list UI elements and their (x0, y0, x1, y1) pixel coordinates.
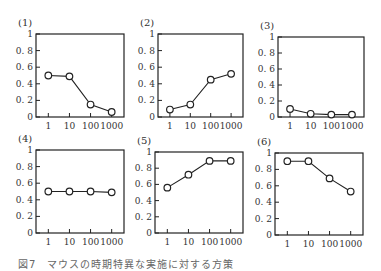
y-tick-label: 1 (27, 29, 33, 39)
x-tick-label: 10 (303, 239, 315, 249)
x-tick-label: 1 (167, 121, 173, 131)
x-tick-label: 1000 (100, 121, 123, 131)
x-tick-label: 10 (64, 121, 76, 131)
x-tick-label: 10 (185, 121, 197, 131)
y-tick-label: 0. 8 (138, 46, 155, 56)
y-tick-label: 0. 6 (16, 62, 33, 72)
y-tick-label: 1 (269, 32, 275, 42)
y-tick-label: 0 (146, 228, 152, 238)
series-line (167, 161, 230, 188)
y-tick-label: 1 (27, 145, 33, 155)
y-tick-label: 0. 4 (138, 79, 155, 89)
data-point-marker (185, 171, 192, 178)
data-point-marker (108, 189, 115, 196)
x-tick-label: 100 (321, 239, 338, 249)
data-point-marker (307, 111, 314, 118)
series-line (290, 109, 352, 115)
chart-panel-6: (6)00. 20. 40. 60. 811101001000 (255, 136, 363, 249)
data-point-marker (326, 175, 333, 182)
plot-frame (278, 37, 364, 117)
y-tick-label: 1 (146, 147, 152, 157)
panel-title: (6) (257, 136, 271, 147)
data-point-marker (45, 72, 52, 79)
y-tick-label: 0. 4 (255, 197, 272, 207)
y-tick-label: 0. 6 (135, 179, 152, 189)
data-point-marker (287, 106, 294, 113)
y-tick-label: 0. 4 (16, 79, 33, 89)
chart-panel-1: (1)00. 20. 40. 60. 811101001000 (16, 17, 124, 131)
figure-caption: 図7 マウスの時期特異な実施に対する方策 (18, 256, 234, 271)
data-point-marker (66, 188, 73, 195)
x-tick-label: 10 (305, 121, 317, 131)
panel-title: (5) (137, 135, 151, 146)
x-tick-label: 100 (323, 121, 340, 131)
x-tick-label: 100 (201, 237, 218, 247)
x-tick-label: 100 (82, 237, 99, 247)
data-point-marker (187, 101, 194, 108)
panel-title: (3) (260, 20, 274, 31)
series-line (48, 192, 111, 193)
data-point-marker (45, 188, 52, 195)
y-tick-label: 0. 6 (258, 64, 275, 74)
y-tick-label: 0 (269, 112, 275, 122)
x-tick-label: 1 (164, 237, 170, 247)
x-tick-label: 1000 (220, 121, 243, 131)
y-tick-label: 1 (266, 148, 272, 158)
x-tick-label: 1 (284, 239, 290, 249)
y-tick-label: 0. 4 (258, 80, 275, 90)
x-tick-label: 100 (82, 121, 99, 131)
data-point-marker (227, 158, 234, 165)
y-tick-label: 0. 8 (16, 162, 33, 172)
data-point-marker (66, 73, 73, 80)
data-point-marker (228, 71, 235, 78)
y-tick-label: 0 (27, 228, 33, 238)
data-point-marker (87, 188, 94, 195)
y-tick-label: 0 (149, 112, 155, 122)
chart-panel-3: (3)00. 20. 40. 60. 811101001000 (258, 20, 364, 131)
data-point-marker (206, 158, 213, 165)
y-tick-label: 0. 8 (16, 46, 33, 56)
panel-title: (1) (18, 17, 32, 28)
y-tick-label: 0. 2 (255, 214, 272, 224)
x-tick-label: 10 (183, 237, 195, 247)
y-tick-label: 0. 8 (255, 164, 272, 174)
y-tick-label: 0. 2 (16, 95, 33, 105)
y-tick-label: 0. 4 (16, 195, 33, 205)
x-tick-label: 1 (287, 121, 293, 131)
chart-panel-2: (2)00. 20. 40. 60. 811101001000 (138, 17, 243, 131)
y-tick-label: 0 (266, 230, 272, 240)
series-line (287, 161, 350, 191)
y-tick-label: 0. 2 (138, 95, 155, 105)
x-tick-label: 1000 (100, 237, 123, 247)
panel-title: (2) (140, 17, 154, 28)
y-tick-label: 0. 6 (255, 181, 272, 191)
y-tick-label: 0. 2 (258, 96, 275, 106)
data-point-marker (349, 111, 356, 118)
y-tick-label: 0. 8 (135, 163, 152, 173)
data-point-marker (108, 109, 115, 116)
y-tick-label: 0. 2 (135, 212, 152, 222)
x-tick-label: 1 (45, 237, 51, 247)
x-tick-label: 1000 (219, 237, 242, 247)
series-line (48, 76, 111, 113)
panel-title: (4) (18, 133, 32, 144)
data-point-marker (305, 158, 312, 165)
x-tick-label: 100 (202, 121, 219, 131)
data-point-marker (328, 111, 335, 118)
data-point-marker (87, 101, 94, 108)
y-tick-label: 0. 4 (135, 196, 152, 206)
data-point-marker (207, 76, 214, 83)
y-tick-label: 0 (27, 112, 33, 122)
data-point-marker (167, 106, 174, 113)
series-line (170, 74, 231, 110)
x-tick-label: 1 (45, 121, 51, 131)
y-tick-label: 0. 6 (16, 178, 33, 188)
x-tick-label: 1000 (341, 121, 364, 131)
chart-panel-5: (5)00. 20. 40. 60. 811101001000 (135, 135, 243, 247)
chart-panel-4: (4)00. 20. 40. 60. 811101001000 (16, 133, 124, 247)
y-tick-label: 0. 2 (16, 211, 33, 221)
y-tick-label: 0. 8 (258, 48, 275, 58)
y-tick-label: 0. 6 (138, 62, 155, 72)
data-point-marker (164, 184, 171, 191)
